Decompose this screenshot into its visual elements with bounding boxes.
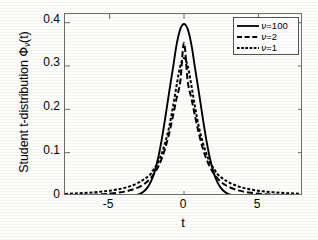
x-axis-title: t [64,215,302,230]
x-tick-label: 5 [237,198,277,210]
y-tick-label: 0.3 [14,56,60,68]
y-tick-label: 0 [14,188,60,200]
y-tick-label: 0.4 [14,13,60,25]
legend-line-solid [237,22,259,30]
legend-label-nu-2: ν=2 [261,32,277,42]
legend-item-nu-1[interactable]: ν=1 [234,42,298,53]
legend-item-nu-100[interactable]: ν=100 [234,20,298,31]
legend-line-dashed [237,33,259,41]
curve---1 [65,58,302,194]
legend-label-nu-100: ν=100 [261,21,288,31]
y-tick-label: 0.2 [14,100,60,112]
x-tick-label: 0 [163,198,203,210]
legend-item-nu-2[interactable]: ν=2 [234,31,298,42]
legend-nu-symbol: ν [261,20,266,31]
y-tick-label: 0.1 [14,144,60,156]
legend-nu-symbol: ν [261,42,266,53]
figure: Student t-distribution Φν(t) 0 0.1 0.2 0… [0,0,318,240]
legend-label-nu-1: ν=1 [261,43,277,53]
legend-nu-symbol: ν [261,31,266,42]
y-tick-labels: 0 0.1 0.2 0.3 0.4 [10,0,60,240]
curve---2 [65,43,302,195]
x-tick-label: -5 [88,198,128,210]
legend-line-dashdot [237,44,259,52]
legend[interactable]: ν=100 ν=2 ν=1 [233,17,299,55]
